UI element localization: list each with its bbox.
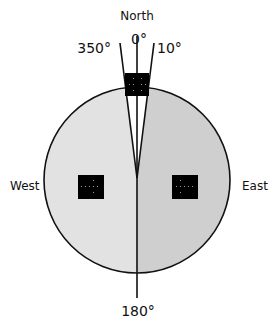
- label-350-deg: 350°: [77, 40, 111, 56]
- east-marker: [172, 175, 198, 199]
- label-180-deg: 180°: [121, 303, 155, 319]
- label-10-deg: 10°: [157, 40, 182, 56]
- label-west: West: [10, 179, 40, 193]
- label-east: East: [242, 179, 268, 193]
- label-0-deg: 0°: [131, 31, 147, 47]
- north-marker: [125, 73, 149, 96]
- compass-diagram: North 0° 350° 10° West East 180°: [0, 0, 273, 328]
- label-north: North: [120, 9, 154, 23]
- west-marker: [78, 175, 104, 199]
